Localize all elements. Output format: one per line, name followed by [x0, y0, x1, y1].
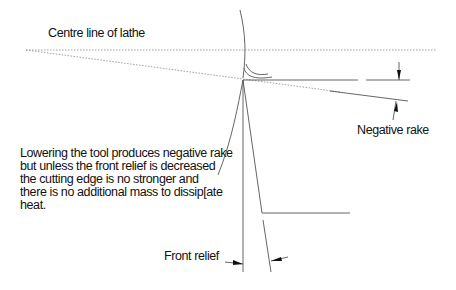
note-line: there is no additional mass to dissip[at…: [20, 185, 223, 199]
arrow-down-icon: [397, 70, 401, 80]
arrow-left-icon: [271, 257, 282, 261]
lathe-tool-rake-diagram: Centre line of lathe Negative rake Front…: [0, 0, 456, 290]
explanatory-note: Lowering the tool produces negative rake…: [20, 146, 233, 212]
workpiece-surface: [240, 10, 245, 78]
note-line: but unless the front relief is decreased: [20, 159, 216, 173]
note-line: heat.: [20, 198, 46, 212]
note-line: Lowering the tool produces negative rake: [20, 146, 233, 160]
chip-curl-inner: [246, 64, 268, 75]
note-line: the cutting edge is no stronger and: [20, 172, 199, 186]
negative-rake-label: Negative rake: [357, 123, 429, 137]
tool-front-curve: [218, 80, 243, 175]
front-relief-label: Front relief: [164, 249, 220, 263]
negative-rake-line: [330, 91, 408, 101]
chip-curl-outer: [244, 68, 272, 78]
tool-front-face: [243, 80, 262, 213]
lowered-centre-line: [26, 50, 340, 92]
front-relief-line: [263, 220, 271, 272]
centre-line-label: Centre line of lathe: [48, 26, 145, 40]
